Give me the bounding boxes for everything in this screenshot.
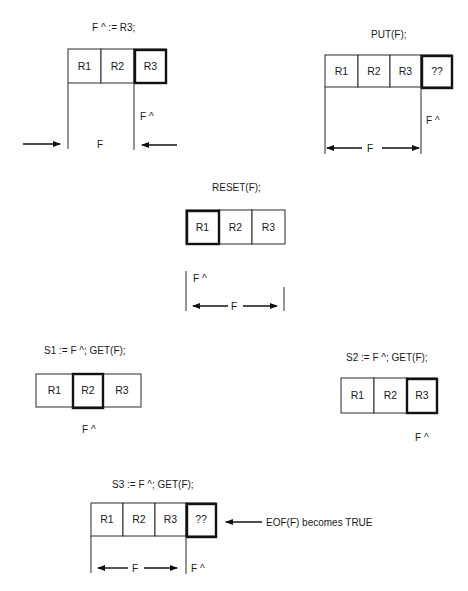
file-cells: R1 R2 R3 (341, 378, 437, 413)
pointer-label: F ^ (82, 424, 96, 435)
cell-label: R2 (111, 60, 125, 72)
panel-get3-caption: S3 := F ^; GET(F); (112, 479, 194, 490)
cell-label: R3 (399, 65, 413, 77)
file-cells: R1 R2 R3 ?? (91, 503, 216, 537)
panel-get1-caption: S1 := F ^; GET(F); (44, 345, 126, 356)
pointer-label: F ^ (415, 432, 429, 443)
panel-reset: RESET(F); R1 R2 R3 F ^ F (186, 182, 285, 312)
pointer-label: F ^ (191, 563, 205, 574)
cell-label: R1 (196, 221, 210, 233)
panel-get2: S2 := F ^; GET(F); R1 R2 R3 F ^ (341, 352, 437, 443)
window-label: F (132, 563, 138, 574)
file-cells: R1 R2 R3 (68, 49, 166, 83)
cell-label: R2 (384, 389, 398, 401)
cell-label: R3 (115, 384, 129, 396)
cell-label: R3 (262, 221, 276, 233)
panel-get2-caption: S2 := F ^; GET(F); (346, 352, 428, 363)
pointer-label: F ^ (193, 273, 207, 284)
cell-label: R1 (48, 384, 62, 396)
cell-label: R1 (335, 65, 349, 77)
cell-label: R1 (78, 60, 92, 72)
panel-get3: S3 := F ^; GET(F); R1 R2 R3 ?? F F ^ EOF… (91, 479, 373, 574)
cell-label: R1 (100, 513, 114, 525)
file-buffer-diagram: F ^ := R3; R1 R2 R3 F ^ F PUT(F); R1 R2 … (0, 0, 468, 591)
pointer-label: F ^ (426, 115, 440, 126)
eof-note: EOF(F) becomes TRUE (266, 517, 373, 528)
cell-label: ?? (195, 513, 207, 525)
cell-label: R1 (351, 389, 365, 401)
panel-put: PUT(F); R1 R2 R3 ?? F ^ F (325, 29, 452, 154)
cell-label: R3 (164, 513, 178, 525)
cell-label: R2 (81, 384, 95, 396)
cell-label: R2 (367, 65, 381, 77)
file-cells: R1 R2 R3 (186, 210, 285, 244)
pointer-label: F ^ (140, 111, 154, 122)
cell-label: R3 (415, 389, 429, 401)
panel-assign-caption: F ^ := R3; (92, 22, 135, 33)
cell-label: R3 (144, 60, 158, 72)
panel-reset-caption: RESET(F); (212, 182, 261, 193)
file-cells: R1 R2 R3 ?? (325, 55, 452, 88)
panel-get1: S1 := F ^; GET(F); R1 R2 R3 F ^ (36, 345, 141, 435)
cell-label: ?? (431, 65, 443, 77)
cell-label: R2 (132, 513, 146, 525)
panel-put-caption: PUT(F); (371, 29, 407, 40)
panel-assign: F ^ := R3; R1 R2 R3 F ^ F (23, 22, 177, 150)
window-label: F (231, 301, 237, 312)
window-label: F (367, 143, 373, 154)
cell-label: R2 (229, 221, 243, 233)
window-label: F (97, 139, 103, 150)
file-cells: R1 R2 R3 (36, 374, 141, 408)
